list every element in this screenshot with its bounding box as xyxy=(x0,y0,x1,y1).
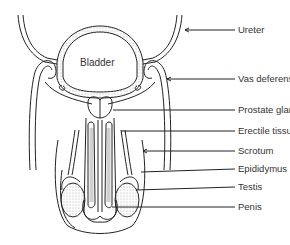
label-prostate-gland: Prostate gland xyxy=(238,105,290,115)
label-scrotum: Scrotum xyxy=(238,146,273,156)
label-epididymus: Epididymus xyxy=(238,164,287,174)
bladder-label: Bladder xyxy=(80,57,114,68)
label-ureter: Ureter xyxy=(238,25,264,35)
label-erectile-tissue: Erectile tissue xyxy=(238,126,290,136)
label-vas-deferens: Vas deferens xyxy=(238,74,290,84)
label-penis: Penis xyxy=(238,202,262,212)
label-testis: Testis xyxy=(238,182,262,192)
